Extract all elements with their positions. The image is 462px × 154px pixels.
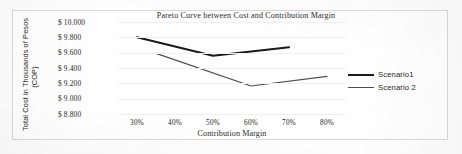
x-axis-tick-label: 50% <box>206 119 220 127</box>
legend-label: Scenario1 <box>378 70 414 79</box>
legend-line-icon <box>348 87 374 88</box>
gridline <box>118 99 346 100</box>
legend-item: Scenario1 <box>348 68 444 81</box>
chart-title: Pareto Curve between Cost and Contributi… <box>96 11 396 20</box>
y-axis-tick-label: $ 9.800 <box>58 33 114 42</box>
gridline <box>118 37 346 38</box>
y-axis-tick-label: $ 9.400 <box>58 64 114 73</box>
legend-item: Scenario 2 <box>348 81 444 94</box>
x-axis-title: Contribution Margin <box>118 129 346 138</box>
y-axis-title-line2: (COP) <box>30 66 39 87</box>
y-axis-tick-label: $ 9.000 <box>58 94 114 103</box>
gridline <box>118 83 346 84</box>
y-axis-tick-labels: $ 10.000$ 9.800$ 9.600$ 9.400$ 9.200$ 9.… <box>56 22 114 114</box>
chart-screenshot: Pareto Curve between Cost and Contributi… <box>0 0 462 154</box>
x-axis-tick-label: 60% <box>244 119 258 127</box>
x-axis-tick-label: 70% <box>282 119 296 127</box>
gridline <box>118 53 346 54</box>
gridline <box>118 22 346 23</box>
gridline <box>118 68 346 69</box>
legend-line-icon <box>348 74 374 76</box>
x-axis-tick-label: 80% <box>320 119 334 127</box>
y-axis-tick-label: $ 9.600 <box>58 48 114 57</box>
plot-area <box>118 22 346 114</box>
chart-legend: Scenario1Scenario 2 <box>348 68 444 94</box>
y-axis-title: Total Cost in Thousands of Pesos (COP) <box>14 22 48 132</box>
gridline <box>118 114 346 115</box>
legend-label: Scenario 2 <box>378 83 416 92</box>
x-axis-tick-label: 40% <box>168 119 182 127</box>
y-axis-tick-label: $ 10.000 <box>58 18 114 27</box>
x-axis-tick-label: 30% <box>130 119 144 127</box>
y-axis-tick-label: $ 8.800 <box>58 110 114 119</box>
y-axis-tick-label: $ 9.200 <box>58 79 114 88</box>
series-line <box>156 53 327 86</box>
